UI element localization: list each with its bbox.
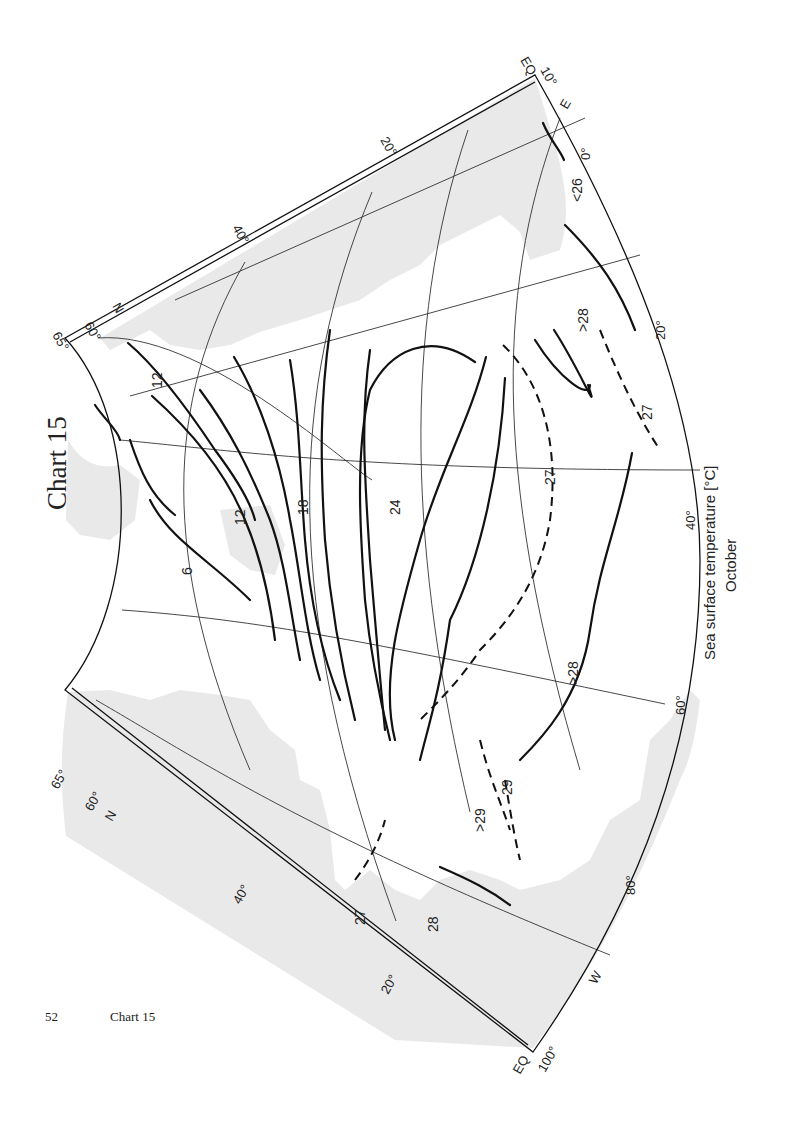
label-24: 24 xyxy=(387,499,403,515)
label-18: 18 xyxy=(295,499,311,515)
label-EQ-bottom: EQ xyxy=(510,1053,532,1077)
label-40-outer: 40° xyxy=(683,510,698,530)
label-65-top: 65° xyxy=(49,329,72,354)
label-W: W xyxy=(586,968,605,987)
label-6: 6 xyxy=(179,567,195,575)
label-100: 100° xyxy=(535,1044,561,1075)
label-80-outer: 80° xyxy=(623,875,638,895)
label-gt29: >29 xyxy=(472,808,488,832)
label-E: E xyxy=(557,96,574,111)
label-29: 29 xyxy=(499,779,515,795)
label-28: 28 xyxy=(425,916,441,932)
label-gt28-upper: >28 xyxy=(575,308,591,332)
label-27b: 27 xyxy=(639,404,655,420)
isotherms-dashed xyxy=(355,330,660,880)
label-lt26: <26 xyxy=(569,178,585,202)
label-0: 0° xyxy=(578,148,593,160)
label-EQ-top: EQ xyxy=(517,54,539,78)
label-20-top: 20° xyxy=(377,134,400,159)
label-gt28-lower: >28 xyxy=(565,661,581,685)
sst-map: 6 12 12 18 24 27 27 27 28 >28 >28 <26 29… xyxy=(0,0,789,1122)
label-40-top: 40° xyxy=(229,222,252,247)
label-60-top: 60° xyxy=(81,319,104,344)
label-27c: 27 xyxy=(352,909,368,925)
label-12b: 12 xyxy=(149,372,165,388)
label-27a: 27 xyxy=(542,469,558,485)
label-N-top: N xyxy=(109,300,127,316)
label-60-outer: 60° xyxy=(673,695,688,715)
label-20-outer: 20° xyxy=(653,320,668,340)
label-12a: 12 xyxy=(232,509,248,525)
